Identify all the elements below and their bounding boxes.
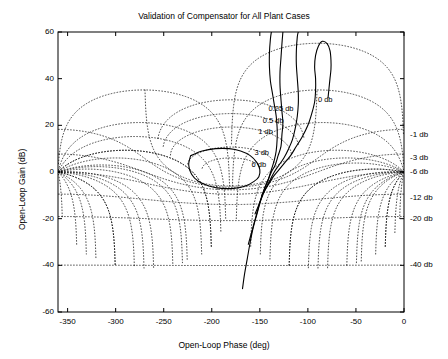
right-axis-contour-label: -3 db — [410, 154, 428, 162]
y-tick-label: -40 — [32, 261, 54, 269]
y-tick-label: 40 — [32, 75, 54, 83]
x-tick-label: 0 — [402, 318, 406, 326]
y-tick-label: 0 — [32, 168, 54, 176]
x-tick-label: -350 — [60, 318, 76, 326]
y-tick-label: 20 — [32, 121, 54, 129]
y-tick-label: 60 — [32, 28, 54, 36]
x-tick-label: -50 — [350, 318, 362, 326]
plot-background — [58, 32, 404, 312]
right-axis-contour-label: -40 db — [410, 261, 433, 269]
plot-canvas — [0, 0, 448, 359]
right-axis-contour-label: -6 db — [410, 168, 428, 176]
x-tick-label: -150 — [252, 318, 268, 326]
right-axis-contour-label: -20 db — [410, 215, 433, 223]
nichols-chart-figure: Validation of Compensator for All Plant … — [0, 0, 448, 359]
y-tick-label: -20 — [32, 215, 54, 223]
x-tick-label: -300 — [108, 318, 124, 326]
contour-label: 0 db — [318, 96, 333, 104]
x-tick-label: -250 — [156, 318, 172, 326]
y-tick-label: -60 — [32, 308, 54, 316]
x-tick-label: -100 — [300, 318, 316, 326]
contour-label: 1 db — [258, 129, 273, 137]
contour-label: 0.25 db — [268, 105, 293, 113]
right-axis-contour-label: -1 db — [410, 131, 428, 139]
contour-label: 3 db — [254, 150, 269, 158]
x-tick-label: -200 — [204, 318, 220, 326]
right-axis-contour-label: -12 db — [410, 194, 433, 202]
contour-label: 0.5 db — [263, 117, 284, 125]
contour-label: 6 db — [252, 161, 267, 169]
